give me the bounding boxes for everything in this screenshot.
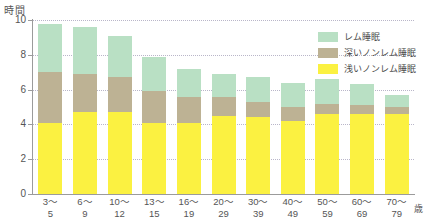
bar-column bbox=[68, 20, 103, 194]
y-axis-tick-label: 8 bbox=[2, 49, 26, 60]
category-label-line2: 12 bbox=[102, 208, 137, 220]
bar-stack bbox=[73, 27, 97, 194]
bar-stack bbox=[142, 57, 166, 194]
legend-item: レム睡眠 bbox=[318, 30, 416, 43]
x-axis-category-label: 13～15 bbox=[137, 196, 172, 224]
bar-segment bbox=[350, 114, 374, 194]
bar-segment bbox=[177, 69, 201, 97]
legend-label: 深いノンレム睡眠 bbox=[344, 46, 416, 59]
category-label-line2: 5 bbox=[33, 208, 68, 220]
bar-segment bbox=[38, 72, 62, 122]
category-label-line1: 60～ bbox=[352, 196, 373, 207]
bar-segment bbox=[281, 121, 305, 194]
category-label-line2: 19 bbox=[172, 208, 207, 220]
bar-stack bbox=[108, 36, 132, 194]
bar-segment bbox=[142, 91, 166, 122]
bar-segment bbox=[246, 102, 270, 118]
y-axis-tickmark bbox=[28, 20, 32, 21]
category-label-line2: 15 bbox=[137, 208, 172, 220]
x-axis-category-labels: 3～56～910～1213～1516～1920～2930～3940～4950～5… bbox=[33, 196, 414, 224]
bar-segment bbox=[315, 79, 339, 103]
legend-label: 浅いノンレム睡眠 bbox=[344, 62, 416, 75]
category-label-line2: 49 bbox=[275, 208, 310, 220]
bar-segment bbox=[281, 83, 305, 107]
legend-color-swatch bbox=[318, 64, 338, 74]
category-label-line1: 10～ bbox=[109, 196, 130, 207]
bar-segment bbox=[108, 112, 132, 194]
y-axis-tick-label: 4 bbox=[2, 118, 26, 129]
bar-segment bbox=[350, 105, 374, 114]
y-axis-tickmark bbox=[28, 55, 32, 56]
bar-segment bbox=[73, 27, 97, 74]
category-label-line1: 20～ bbox=[213, 196, 234, 207]
category-label-line2: 69 bbox=[345, 208, 380, 220]
category-label-line2: 29 bbox=[206, 208, 241, 220]
bar-segment bbox=[315, 114, 339, 194]
x-axis-category-label: 40～49 bbox=[275, 196, 310, 224]
bar-stack bbox=[246, 77, 270, 194]
category-label-line1: 6～ bbox=[77, 196, 92, 207]
x-axis-category-label: 60～69 bbox=[345, 196, 380, 224]
bar-segment bbox=[38, 24, 62, 73]
bar-column bbox=[275, 20, 310, 194]
bar-stack bbox=[385, 95, 409, 194]
bar-segment bbox=[177, 97, 201, 123]
bar-column bbox=[172, 20, 207, 194]
y-axis-tick-label: 2 bbox=[2, 153, 26, 164]
bar-segment bbox=[350, 84, 374, 105]
category-label-line1: 13～ bbox=[144, 196, 165, 207]
category-label-line1: 40～ bbox=[283, 196, 304, 207]
category-label-line2: 59 bbox=[310, 208, 345, 220]
category-label-line1: 70～ bbox=[386, 196, 407, 207]
category-label-line1: 3～ bbox=[43, 196, 58, 207]
x-axis-category-label: 20～29 bbox=[206, 196, 241, 224]
legend-color-swatch bbox=[318, 32, 338, 42]
bar-column bbox=[241, 20, 276, 194]
bar-segment bbox=[177, 123, 201, 194]
bar-segment bbox=[246, 117, 270, 194]
category-label-line2: 39 bbox=[241, 208, 276, 220]
legend-label: レム睡眠 bbox=[344, 30, 380, 43]
bar-segment bbox=[212, 74, 236, 97]
x-axis-line bbox=[32, 194, 415, 195]
y-axis-tick-label: 0 bbox=[2, 188, 26, 199]
bar-segment bbox=[108, 36, 132, 78]
x-axis-category-label: 50～59 bbox=[310, 196, 345, 224]
chart-legend: レム睡眠深いノンレム睡眠浅いノンレム睡眠 bbox=[318, 30, 416, 75]
x-axis-category-label: 3～5 bbox=[33, 196, 68, 224]
bar-segment bbox=[385, 95, 409, 107]
bar-segment bbox=[385, 107, 409, 114]
sleep-stage-stacked-bar-chart: 時間 歳 0246810 3～56～910～1213～1516～1920～293… bbox=[0, 0, 435, 224]
x-axis-category-label: 6～9 bbox=[68, 196, 103, 224]
x-axis-unit-label: 歳 bbox=[414, 202, 423, 215]
x-axis-category-label: 16～19 bbox=[172, 196, 207, 224]
legend-item: 深いノンレム睡眠 bbox=[318, 46, 416, 59]
x-axis-category-label: 10～12 bbox=[102, 196, 137, 224]
bar-segment bbox=[212, 116, 236, 194]
legend-item: 浅いノンレム睡眠 bbox=[318, 62, 416, 75]
bar-segment bbox=[73, 74, 97, 112]
bar-stack bbox=[281, 83, 305, 194]
bar-segment bbox=[212, 97, 236, 116]
bar-segment bbox=[142, 57, 166, 92]
bar-column bbox=[137, 20, 172, 194]
bar-stack bbox=[177, 69, 201, 194]
bar-segment bbox=[315, 104, 339, 114]
category-label-line2: 79 bbox=[379, 208, 414, 220]
category-label-line1: 50～ bbox=[317, 196, 338, 207]
y-axis-tickmark bbox=[28, 159, 32, 160]
y-axis-tickmark bbox=[28, 90, 32, 91]
bar-segment bbox=[73, 112, 97, 194]
x-axis-category-label: 30～39 bbox=[241, 196, 276, 224]
bar-stack bbox=[212, 74, 236, 194]
y-axis-tickmark bbox=[28, 124, 32, 125]
bar-segment bbox=[38, 123, 62, 194]
bar-column bbox=[33, 20, 68, 194]
y-axis-tickmark bbox=[28, 194, 32, 195]
bar-segment bbox=[246, 77, 270, 101]
category-label-line1: 30～ bbox=[248, 196, 269, 207]
bar-segment bbox=[281, 107, 305, 121]
bar-stack bbox=[350, 84, 374, 194]
bar-stack bbox=[38, 24, 62, 195]
category-label-line2: 9 bbox=[68, 208, 103, 220]
